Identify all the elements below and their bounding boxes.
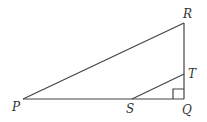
label-t: T xyxy=(188,67,197,81)
label-r: R xyxy=(182,7,192,21)
label-s: S xyxy=(126,102,134,116)
segment-st xyxy=(132,74,184,99)
right-angle-marker xyxy=(173,89,184,99)
triangle-diagram: P S Q T R xyxy=(0,0,207,122)
segment-pr xyxy=(23,23,184,99)
label-p: P xyxy=(11,100,21,114)
label-q: Q xyxy=(182,103,192,117)
